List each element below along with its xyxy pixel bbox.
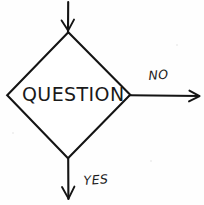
edge-no bbox=[130, 91, 200, 102]
edge-yes bbox=[62, 158, 74, 199]
edge-no-line bbox=[130, 95, 199, 96]
flowchart-canvas: QUESTION NO YES bbox=[0, 0, 204, 205]
branch-label-no: NO bbox=[148, 67, 169, 83]
edge-incoming bbox=[62, 2, 74, 33]
decision-label: QUESTION bbox=[22, 82, 125, 105]
branch-label-yes: YES bbox=[83, 171, 109, 188]
